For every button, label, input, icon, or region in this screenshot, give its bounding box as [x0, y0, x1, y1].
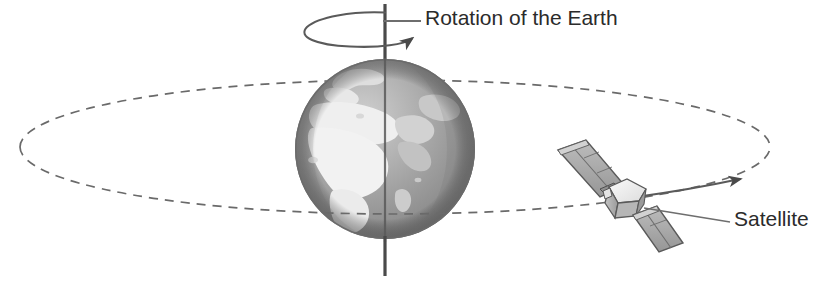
- satellite-direction-arrow: [636, 179, 740, 197]
- rotation-direction-arrow: [304, 12, 412, 47]
- satellite: [558, 140, 683, 252]
- diagram-canvas: [0, 0, 817, 292]
- satellite-orbit-diagram: Rotation of the Earth Satellite: [0, 0, 817, 292]
- bottom-clipped-caption: [60, 285, 760, 292]
- rotation-of-the-earth-label: Rotation of the Earth: [425, 7, 618, 28]
- satellite-label: Satellite: [734, 208, 809, 229]
